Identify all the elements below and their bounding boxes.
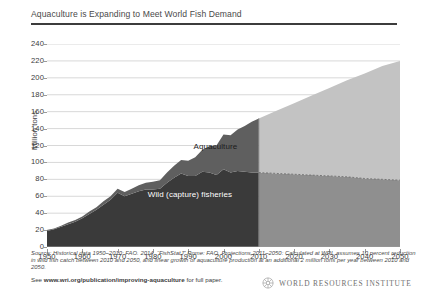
wri-wordmark: WORLD RESOURCES INSTITUTE <box>279 279 412 288</box>
title-divider <box>31 23 397 25</box>
wri-logo: WORLD RESOURCES INSTITUTE <box>262 277 412 289</box>
paper-url-link[interactable]: www.wri.org/publication/improving-aquacu… <box>44 276 185 283</box>
y-axis-tick-label: 200 <box>10 74 44 82</box>
plot-area: Aquaculture Wild (capture) fisheries <box>47 44 400 247</box>
y-axis-tick-label: 60 <box>10 192 44 200</box>
title-block: Aquaculture is Expanding to Meet World F… <box>31 8 397 25</box>
page-title: Aquaculture is Expanding to Meet World F… <box>31 8 397 20</box>
paper-link-suffix: for full paper. <box>185 276 223 283</box>
series-label-wild-capture-fisheries: Wild (capture) fisheries <box>148 190 232 199</box>
y-axis-tick-label: 140 <box>10 125 44 133</box>
paper-link-prefix: See <box>31 276 44 283</box>
y-axis-tick-labels: 020406080100120140160180200220240 <box>8 40 44 251</box>
area-wild-projection <box>259 173 400 247</box>
y-axis-tick-mark <box>43 247 47 248</box>
y-axis-tick-label: 160 <box>10 108 44 116</box>
y-axis-tick-label: 220 <box>10 57 44 65</box>
area-aquaculture-projection <box>259 61 400 180</box>
y-axis-tick-label: 40 <box>10 209 44 217</box>
y-axis-tick-label: 80 <box>10 175 44 183</box>
series-shapes <box>47 61 400 247</box>
area-wild-historical <box>47 169 259 247</box>
source-note: Source: Historical data 1950–2010: FAO. … <box>31 250 421 272</box>
y-axis-tick-label: 20 <box>10 226 44 234</box>
chart-container: Million tons 020406080100120140160180200… <box>0 40 425 255</box>
y-axis-tick-label: 240 <box>10 40 44 48</box>
wri-rosette-icon <box>262 277 274 289</box>
y-axis-tick-label: 120 <box>10 142 44 150</box>
y-axis-tick-label: 100 <box>10 158 44 166</box>
y-axis-tick-label: 180 <box>10 91 44 99</box>
series-label-aquaculture: Aquaculture <box>194 142 238 151</box>
